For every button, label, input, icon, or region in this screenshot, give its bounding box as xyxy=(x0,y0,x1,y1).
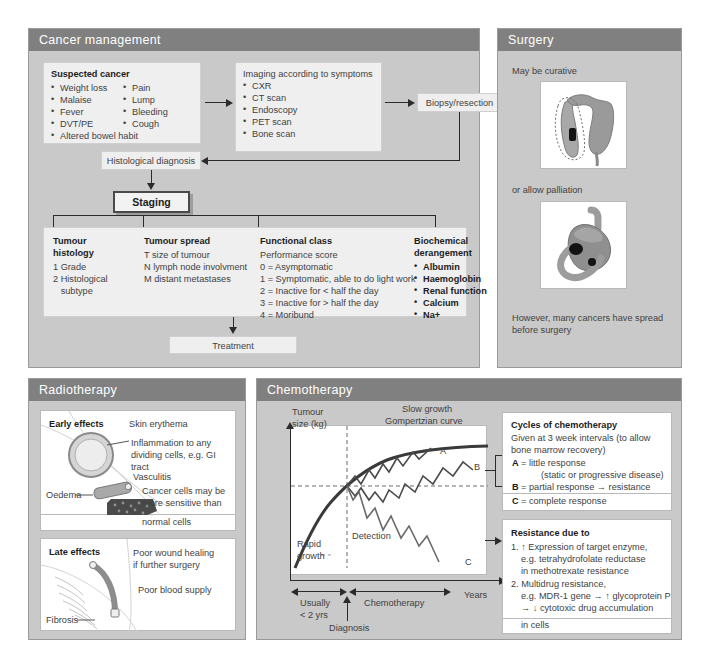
chart-x-axis xyxy=(290,580,500,581)
histological-diagnosis-box: Histological diagnosis xyxy=(101,151,201,170)
label-skin-erythema: Skin erythema xyxy=(129,418,188,430)
histological-diagnosis-label: Histological diagnosis xyxy=(107,156,195,166)
list-item: Calcium xyxy=(414,297,487,309)
label-wound-line2: if further surgery xyxy=(133,559,200,571)
annotation-rapid-line2: growth xyxy=(297,550,325,562)
resistance-due-to-card: Resistance due to 1. ↑ Expression of tar… xyxy=(502,519,672,619)
list-item: CT scan xyxy=(243,92,374,104)
annotation-usually-line2: < 2 yrs xyxy=(300,609,328,621)
panel-cancer-management: Cancer management Suspected cancer Weigh… xyxy=(28,28,480,368)
resistance-item2-line3: → ↓ cytotoxic drug accumulation xyxy=(521,602,653,614)
cycles-line1: Given at 3 week intervals (to allow xyxy=(511,432,650,444)
staging-bus-horizontal xyxy=(53,215,435,216)
biopsy-resection-label: Biopsy/resection xyxy=(426,98,493,108)
early-effects-card: Early effects Skin erythema Inflammation… xyxy=(40,410,236,515)
diagnosis-pointer-line xyxy=(347,603,348,621)
list-item: Na+ xyxy=(414,309,487,321)
label-cancer-line2: more sensitive than xyxy=(142,497,222,509)
resistance-item2-line2: e.g. MDR-1 gene → ↑ glycoprotein P xyxy=(521,590,671,602)
cycles-of-chemotherapy-card: Cycles of chemotherapy Given at 3 week i… xyxy=(502,412,672,494)
line-biopsy-down xyxy=(459,112,460,160)
cycles-title: Cycles of chemotherapy xyxy=(511,419,617,431)
suspected-cancer-col1: Weight loss Malaise Fever DVT/PE xyxy=(51,82,117,130)
list-item: Endoscopy xyxy=(243,104,374,116)
annotation-usually-line1: Usually xyxy=(300,597,330,609)
cycles-card-overflow: C = complete response xyxy=(502,494,672,511)
arrow-imaging-to-biopsy xyxy=(385,102,409,103)
colon-tumour-resection-illustration xyxy=(540,81,627,169)
column-1-line-3: subtype xyxy=(53,285,93,297)
label-inflammation-line2: dividing cells, e.g. GI tract xyxy=(131,449,235,473)
list-item: Fever xyxy=(51,106,117,118)
list-item: Bleeding xyxy=(123,106,168,118)
arrow-suspected-to-imaging xyxy=(205,102,227,103)
column-3-line-6: 4 = Moribund xyxy=(260,309,314,321)
label-fibrosis: Fibrosis xyxy=(46,614,78,626)
column-4-heading-line1: Biochemical xyxy=(414,235,468,247)
resistance-item1-line3: in methotrexate resistance xyxy=(521,565,629,577)
label-oedema: Oedema xyxy=(46,489,81,501)
annotation-detection: Detection xyxy=(352,530,391,542)
imaging-box: Imaging according to symptoms CXR CT sca… xyxy=(235,62,382,152)
list-item: Pain xyxy=(123,82,168,94)
cycles-c-key: C xyxy=(512,495,519,507)
column-4-bullets: Albumin Haemoglobin Renal function Calci… xyxy=(414,261,487,321)
suspected-cancer-col2: Pain Lump Bleeding Cough xyxy=(123,82,168,130)
cycles-line2: bone marrow recovery) xyxy=(511,444,605,456)
late-effects-card: Late effects Poor wound healing if furth… xyxy=(40,538,236,631)
staging-label: Staging xyxy=(132,196,171,208)
line-histological-to-staging xyxy=(151,170,152,184)
column-2-line-2: N lymph node involvment xyxy=(144,261,247,273)
label-cancer-line1: Cancer cells may be xyxy=(142,485,225,497)
label-vasculitis: Vasculitis xyxy=(133,471,171,483)
stomach-illustration-svg xyxy=(541,202,628,290)
chart-y-axis xyxy=(290,429,291,581)
label-cancer-line3: normal cells xyxy=(142,516,191,528)
list-item: Cough xyxy=(123,118,168,130)
annotation-slow-growth: Slow growth xyxy=(402,403,452,415)
resistance-title: Resistance due to xyxy=(511,527,590,539)
column-2-heading-line1: Tumour spread xyxy=(144,235,210,247)
surgery-caption-mid: or allow palliation xyxy=(512,184,582,196)
resistance-item1-line1: 1. ↑ Expression of target enzyme, xyxy=(511,541,647,553)
annotation-response-b: B xyxy=(474,461,480,473)
list-item: Malaise xyxy=(51,94,117,106)
annotation-rapid-line1: Rapid xyxy=(297,538,321,550)
list-item: CXR xyxy=(243,80,374,92)
cycles-a-key: A xyxy=(512,457,519,469)
list-item: Lump xyxy=(123,94,168,106)
arrowhead-to-treatment xyxy=(229,327,237,334)
chart-ylabel-line2: size (kg) xyxy=(292,418,327,430)
imaging-title: Imaging according to symptoms xyxy=(243,68,374,80)
cycles-bracket-stem xyxy=(485,470,496,471)
arrowhead-to-staging xyxy=(147,183,155,190)
phase-arrow-usually-left-head xyxy=(291,588,298,596)
annotation-gompertzian: Gompertzian curve xyxy=(385,415,463,427)
column-3-line-1: Performance score xyxy=(260,249,338,261)
column-3-line-2: 0 = Asymptomatic xyxy=(260,261,333,273)
panel-title-radiotherapy: Radiotherapy xyxy=(29,379,245,401)
label-wound-line1: Poor wound healing xyxy=(133,547,214,559)
list-item: Bone scan xyxy=(243,128,374,140)
suspected-cancer-box: Suspected cancer Weight loss Malaise Fev… xyxy=(43,62,201,144)
imaging-list: CXR CT scan Endoscopy PET scan Bone scan xyxy=(243,80,374,140)
cycles-b-key: B xyxy=(512,481,519,493)
panel-title-chemotherapy: Chemotherapy xyxy=(257,379,681,401)
line-biopsy-to-histological xyxy=(207,160,460,161)
stomach-bypass-illustration xyxy=(540,201,627,289)
column-3-heading-line1: Functional class xyxy=(260,235,332,247)
panel-title-surgery: Surgery xyxy=(498,29,681,51)
annotation-chemotherapy-phase: Chemotherapy xyxy=(364,597,424,609)
cycles-a-sub: (static or progressive disease) xyxy=(541,469,664,481)
annotation-response-c: C xyxy=(465,556,472,568)
suspected-cancer-fullrow: Altered bowel habit xyxy=(51,130,193,142)
list-item: Altered bowel habit xyxy=(51,130,193,142)
panel-radiotherapy: Radiotherapy Ea xyxy=(28,378,246,640)
panel-title-cancer-management: Cancer management xyxy=(29,29,479,51)
list-item: PET scan xyxy=(243,116,374,128)
colon-illustration-svg xyxy=(541,82,628,170)
resistance-item2-line1: 2. Multidrug resistance, xyxy=(511,578,606,590)
surgery-caption-bottom-line2: before surgery xyxy=(512,324,571,336)
annotation-response-a: A xyxy=(440,445,446,457)
label-blood-supply: Poor blood supply xyxy=(138,584,212,596)
